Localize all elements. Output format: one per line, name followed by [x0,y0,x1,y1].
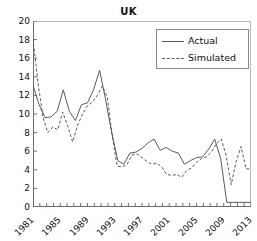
y-tick-label: 16 [0,54,30,63]
x-tick-label: 1993 [95,215,118,238]
x-tick-label: 2013 [231,215,254,238]
x-tick-label: 1985 [40,215,63,238]
x-tick-label: 1981 [13,215,36,238]
y-axis-ticks [33,21,37,207]
legend-line-solid-icon [160,36,186,46]
y-tick-label: 4 [0,165,30,174]
y-tick-label: 12 [0,91,30,100]
legend-entry-actual: Actual [160,32,245,49]
y-tick-label: 6 [0,147,30,156]
x-axis-tick-labels: 198119851989199319972001200520092013 [33,209,257,241]
y-tick-label: 14 [0,72,30,81]
x-tick-label: 1997 [122,215,145,238]
legend-label-simulated: Simulated [186,53,236,63]
x-tick-label: 2009 [204,215,227,238]
y-tick-label: 0 [0,203,30,212]
y-tick-label: 10 [0,110,30,119]
x-tick-label: 2001 [149,215,172,238]
legend-label-actual: Actual [186,36,218,46]
legend-entry-simulated: Simulated [160,49,245,66]
chart-title: UK [0,6,257,17]
chart-legend: Actual Simulated [156,29,249,69]
y-axis-tick-labels: 02468101214161820 [0,21,30,207]
series-line-actual [33,70,251,202]
legend-line-dashed-icon [160,53,186,63]
y-tick-label: 2 [0,184,30,193]
x-axis-minor-ticks [33,203,251,207]
y-tick-label: 8 [0,128,30,137]
y-tick-label: 20 [0,17,30,26]
x-tick-label: 1989 [68,215,91,238]
x-tick-label: 2005 [177,215,200,238]
y-tick-label: 18 [0,35,30,44]
chart-figure: UK 02468101214161820 1981198519891993199… [0,0,257,241]
